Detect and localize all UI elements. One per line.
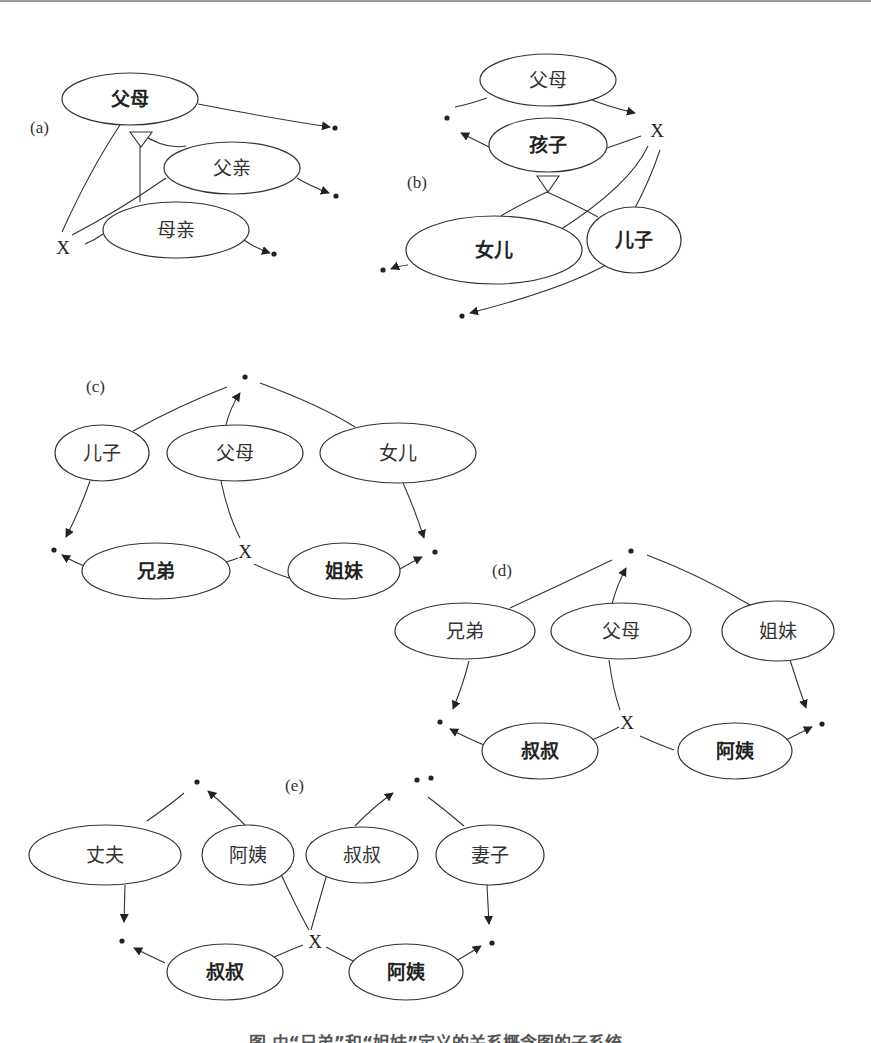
arrow-edge: [786, 727, 812, 740]
node-label: 叔叔: [206, 961, 245, 983]
node-label: 孩子: [529, 134, 567, 156]
endpoint-dot-icon: [819, 721, 824, 726]
concept-node-d-parents: 父母: [551, 603, 691, 659]
variable-x-e: X: [308, 931, 322, 952]
node-label: 姐妹: [325, 560, 364, 582]
arrow-edge: [244, 240, 270, 253]
link-edge: [260, 383, 355, 427]
variable-x-d: X: [620, 712, 634, 733]
endpoint-dot-icon: [332, 125, 337, 130]
endpoint-dot-icon: [459, 313, 464, 318]
panel-label-d: (d): [492, 561, 512, 580]
arrow-edge: [66, 481, 90, 537]
link-edge: [607, 136, 641, 148]
inheritance-triangle-icon: [130, 132, 152, 147]
node-label: 女儿: [379, 442, 417, 464]
variable-x-b: X: [650, 120, 664, 141]
concept-node-d-sister: 姐妹: [722, 601, 834, 661]
concept-node-a-parents: 父母: [62, 73, 198, 125]
arrow-edge: [226, 393, 240, 425]
concept-node-e-uncle: 叔叔: [167, 944, 283, 1000]
node-label: 叔叔: [521, 740, 560, 762]
link-edge: [326, 947, 357, 963]
link-edge: [226, 558, 238, 562]
arrow-edge: [461, 133, 491, 148]
concept-node-d-aunt: 阿姨: [678, 723, 792, 779]
node-label: 儿子: [83, 442, 121, 464]
endpoint-dot-icon: [414, 777, 419, 782]
variable-x-a: X: [56, 237, 70, 258]
node-label: 兄弟: [136, 560, 175, 582]
endpoint-dot-icon: [432, 549, 437, 554]
arrow-edge: [198, 104, 330, 127]
arrow-edge: [453, 661, 469, 709]
node-label: 姐妹: [759, 620, 797, 642]
link-edge: [280, 872, 309, 930]
link-edge: [272, 945, 303, 958]
concept-node-b-son: 儿子: [587, 207, 681, 273]
node-label: 阿姨: [229, 844, 267, 866]
link-edge: [510, 560, 612, 608]
concept-node-d-brother: 兄弟: [395, 603, 535, 659]
node-label: 父母: [529, 69, 567, 91]
node-label: 儿子: [614, 229, 653, 251]
arrow-edge: [487, 885, 489, 924]
panel-label-c: (c): [86, 377, 105, 396]
concept-node-b-parents: 父母: [480, 54, 616, 106]
endpoint-dot-icon: [428, 775, 433, 780]
concept-node-c-parents: 父母: [167, 425, 303, 481]
link-edge: [85, 234, 103, 244]
node-label: 妻子: [471, 844, 509, 866]
link-edge: [428, 797, 464, 826]
endpoint-dot-icon: [444, 115, 449, 120]
concept-node-e-husband: 丈夫: [29, 825, 181, 885]
link-edge: [634, 150, 660, 210]
arrow-edge: [456, 946, 481, 961]
arrow-edge: [612, 568, 626, 604]
node-label: 父亲: [213, 157, 251, 179]
link-edge: [640, 736, 674, 750]
concept-node-c-brother: 兄弟: [82, 543, 230, 599]
link-edge: [133, 387, 227, 431]
link-edge: [221, 481, 240, 538]
endpoint-dot-icon: [333, 193, 338, 198]
variable-x-c: X: [238, 541, 252, 562]
link-edge: [147, 793, 184, 821]
concept-node-a-father: 父亲: [164, 142, 300, 194]
node-label: 叔叔: [343, 844, 381, 866]
concept-node-b-child: 孩子: [489, 118, 607, 172]
arrow-edge: [134, 948, 165, 963]
link-edge: [609, 660, 620, 710]
concept-node-c-son: 儿子: [55, 425, 149, 481]
concept-node-e-uncle-top: 叔叔: [306, 827, 418, 883]
panel-label-a: (a): [30, 118, 49, 137]
node-label: 父母: [110, 88, 149, 110]
node-label: 父母: [216, 442, 254, 464]
kinship-concept-diagram: 父母父亲母亲父母孩子女儿儿子儿子父母女儿兄弟姐妹兄弟父母姐妹叔叔阿姨丈夫阿姨叔叔…: [0, 0, 871, 1043]
node-label: 父母: [602, 620, 640, 642]
link-edge: [501, 192, 547, 216]
link-edge: [455, 98, 487, 107]
figure-caption: 图 由“兄弟”和“姐妹”定义的关系概念图的子系统: [0, 1030, 871, 1043]
arrow-edge: [391, 265, 408, 269]
endpoint-dot-icon: [194, 779, 199, 784]
concept-node-e-aunt: 阿姨: [349, 944, 463, 1000]
link-edge: [254, 564, 289, 578]
concept-nodes: 父母父亲母亲父母孩子女儿儿子儿子父母女儿兄弟姐妹兄弟父母姐妹叔叔阿姨丈夫阿姨叔叔…: [29, 54, 834, 1000]
node-label: 兄弟: [446, 620, 484, 642]
endpoint-dot-icon: [271, 251, 276, 256]
concept-node-e-aunt-top: 阿姨: [202, 825, 294, 885]
arrow-edge: [403, 483, 424, 538]
endpoint-dot-icon: [119, 938, 124, 943]
endpoint-dot-icon: [489, 940, 494, 945]
inheritance-triangle-icon: [537, 176, 559, 192]
node-label: 女儿: [475, 239, 513, 261]
arrow-edge: [208, 791, 245, 825]
concept-node-c-sister: 姐妹: [288, 543, 400, 599]
arrow-edge: [450, 729, 484, 745]
node-label: 阿姨: [716, 740, 755, 762]
node-label: 母亲: [157, 219, 195, 241]
endpoint-dot-icon: [437, 719, 442, 724]
panel-label-e: (e): [285, 776, 304, 795]
endpoint-dot-icon: [242, 374, 247, 379]
